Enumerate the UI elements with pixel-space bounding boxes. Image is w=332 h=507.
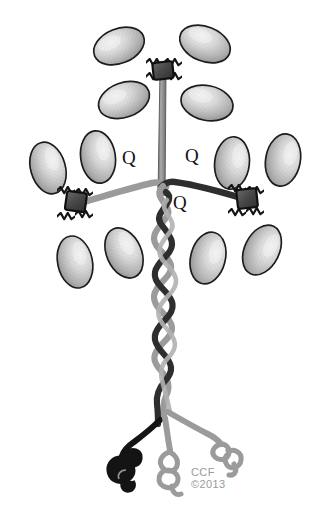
watermark-line-2: ©2013 [191, 479, 226, 490]
watermark-line-1: CCF [191, 466, 215, 478]
protein-complex-diagram [0, 0, 332, 507]
copyright-watermark: CCF ©2013 [191, 467, 226, 490]
central-stem-rod [158, 70, 166, 196]
illustration-canvas: Q Q Q CCF ©2013 [0, 0, 332, 507]
label-q-left: Q [122, 148, 136, 167]
label-q-right: Q [185, 146, 199, 165]
label-q-center: Q [173, 193, 187, 212]
